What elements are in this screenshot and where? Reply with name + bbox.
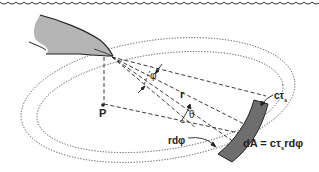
label-area-equation: dA = cτsrdφ bbox=[243, 138, 303, 151]
area-eq-prefix: dA = cτ bbox=[243, 137, 281, 149]
pulse-depth-sub: s bbox=[284, 97, 287, 103]
water-surface-line bbox=[0, 2, 319, 4]
label-pulse-depth: cτs bbox=[274, 91, 287, 103]
area-eq-suffix: rdφ bbox=[284, 137, 303, 149]
dolphin-icon bbox=[29, 15, 113, 56]
label-p: P bbox=[99, 108, 106, 119]
label-theta: θ bbox=[189, 110, 195, 120]
label-rdphi: rdφ bbox=[168, 136, 185, 146]
insonified-area-patch bbox=[218, 100, 268, 162]
label-r: r bbox=[180, 89, 184, 100]
pulse-depth-text: cτ bbox=[274, 90, 284, 101]
diagram-canvas: P r φ θ rdφ cτs dA = cτsrdφ bbox=[0, 0, 319, 172]
label-phi: φ bbox=[150, 71, 156, 81]
